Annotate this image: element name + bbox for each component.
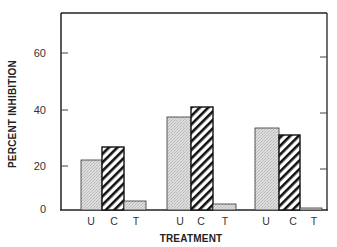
bar-g1-c — [102, 147, 124, 210]
bar-g2-t — [213, 204, 236, 210]
y-axis-title: PERCENT INHIBITION — [7, 60, 18, 168]
x-axis-labels: U C T U C T U C T — [87, 215, 318, 227]
x-label-g1-c: C — [110, 215, 118, 227]
bar-chart: 60 40 20 0 PERCENT INHIBITION U C T U C … — [0, 0, 337, 247]
bar-g3-t — [300, 208, 322, 210]
bar-group-2 — [167, 107, 236, 210]
x-label-g3-t: T — [311, 215, 318, 227]
bar-g1-u — [81, 160, 102, 210]
bar-g3-u — [255, 128, 279, 210]
bar-group-1 — [81, 147, 146, 210]
x-label-g2-u: U — [176, 215, 184, 227]
y-tick-20: 20 — [34, 160, 46, 172]
y-axis-labels: 60 40 20 0 — [34, 47, 46, 215]
y-tick-0: 0 — [40, 203, 46, 215]
y-tick-60: 60 — [34, 47, 46, 59]
bar-group-3 — [255, 128, 322, 210]
y-tick-40: 40 — [34, 104, 46, 116]
x-label-g1-t: T — [133, 215, 140, 227]
bar-g1-t — [124, 201, 146, 210]
x-label-g3-u: U — [262, 215, 270, 227]
x-label-g2-c: C — [197, 215, 205, 227]
bar-g3-c — [279, 135, 300, 210]
bar-g2-u — [167, 117, 191, 210]
x-axis-title: TREATMENT — [160, 233, 223, 244]
bar-g2-c — [191, 107, 213, 210]
x-label-g1-u: U — [87, 215, 95, 227]
x-label-g3-c: C — [289, 215, 297, 227]
x-label-g2-t: T — [222, 215, 229, 227]
